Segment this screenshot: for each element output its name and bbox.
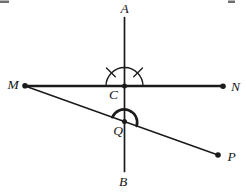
label-Q: Q — [113, 123, 123, 138]
page-edge-artifact-right — [228, 1, 235, 4]
label-B: B — [119, 174, 127, 189]
label-A: A — [119, 1, 129, 16]
label-P: P — [226, 149, 235, 164]
point-N — [220, 83, 226, 89]
label-C: C — [109, 87, 119, 102]
geometry-figure: ABMNCQP — [0, 0, 246, 193]
equal-angle-tick-left — [107, 68, 116, 77]
page-edge-artifact-left — [0, 1, 9, 4]
equal-angle-tick-right — [134, 68, 143, 77]
point-C — [122, 84, 127, 89]
label-M: M — [6, 77, 19, 92]
line-MP — [25, 86, 218, 155]
diagram-svg: ABMNCQP — [0, 0, 246, 193]
point-P — [215, 152, 221, 158]
label-N: N — [230, 79, 241, 94]
point-M — [22, 83, 28, 89]
